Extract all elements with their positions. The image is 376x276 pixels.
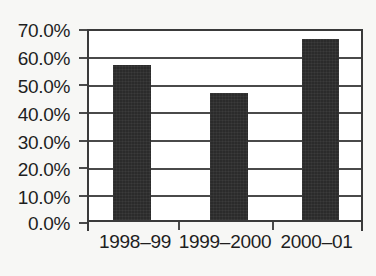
y-axis-tick-label: 50.0% [0, 77, 70, 96]
y-axis-tick-mark [79, 112, 87, 114]
bar-1999-2000 [210, 93, 248, 220]
y-axis-tick-label: 40.0% [0, 105, 70, 124]
y-axis-tick-label: 30.0% [0, 133, 70, 152]
y-axis-tick-label: 20.0% [0, 160, 70, 179]
x-axis-category-label: 1998–99 [92, 231, 178, 252]
y-axis-tick-mark [79, 222, 87, 224]
y-axis-tick-mark [79, 195, 87, 197]
bar-chart-figure: 70.0% 60.0% 50.0% 40.0% 30.0% 20.0% 10.0… [0, 0, 376, 276]
y-axis-tick-mark [79, 29, 87, 31]
y-axis-tick-mark [79, 57, 87, 59]
x-axis-category-tick [178, 222, 180, 230]
x-axis-end-tick [361, 222, 363, 231]
plot-area [87, 29, 363, 222]
y-axis-tick-mark [79, 167, 87, 169]
y-axis-tick-mark [79, 140, 87, 142]
bar-1998-99 [113, 65, 151, 220]
y-axis-tick-label: 70.0% [0, 21, 70, 40]
x-axis-start-tick [87, 222, 89, 231]
bar-2000-01 [302, 39, 339, 220]
y-axis-tick-mark [79, 84, 87, 86]
x-axis-category-label: 2000–01 [272, 231, 361, 252]
x-axis-category-label: 1999–2000 [178, 231, 272, 252]
x-axis-category-tick [272, 222, 274, 230]
y-axis-tick-label: 60.0% [0, 49, 70, 68]
y-axis-tick-label: 0.0% [0, 214, 70, 233]
y-axis-tick-label: 10.0% [0, 188, 70, 207]
